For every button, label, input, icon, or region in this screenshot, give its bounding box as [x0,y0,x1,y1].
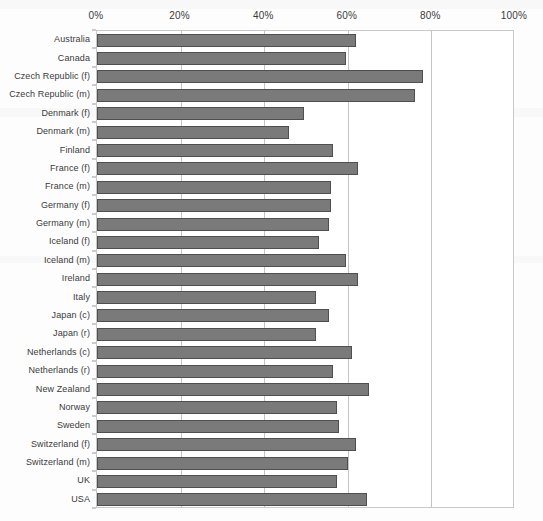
x-tick-label: 60% [336,10,357,21]
bar [97,475,337,488]
y-tick-label: New Zealand [36,384,90,394]
plot-area [96,30,514,508]
bar [97,199,331,212]
bar [97,328,316,341]
bar [97,162,358,175]
bar [97,107,304,120]
y-tick-label: Switzerland (m) [26,457,90,467]
x-tick-label: 0% [89,10,104,21]
y-tick-label: Czech Republic (m) [9,89,90,99]
y-tick-label: Germany (f) [41,200,90,210]
bar [97,70,423,83]
scan-artifact-band [0,0,543,9]
y-tick-label: Denmark (m) [36,126,90,136]
bar [97,52,346,65]
gridline [264,31,265,507]
y-tick-label: Iceland (f) [49,236,90,246]
bar [97,181,331,194]
bar [97,420,339,433]
y-tick-label: France (f) [50,163,90,173]
y-tick-label: Sweden [57,420,90,430]
bar [97,254,346,267]
y-tick-label: Finland [60,145,90,155]
bar [97,144,333,157]
gridline [431,31,432,507]
bar-chart: 0%20%40%60%80%100% AustraliaCanadaCzech … [0,0,543,521]
y-tick-label: Canada [58,53,90,63]
bar [97,34,356,47]
x-tick-label: 100% [501,10,527,21]
y-tick-label: Germany (m) [36,218,90,228]
bar [97,383,369,396]
x-tick-label: 80% [420,10,441,21]
y-tick-label: France (m) [45,181,90,191]
y-tick-label: Australia [54,34,90,44]
y-tick-label: Iceland (m) [44,255,90,265]
bar [97,89,415,102]
bar [97,126,289,139]
y-tick-label: Japan (c) [52,310,90,320]
bar [97,365,333,378]
y-tick-label: Ireland [62,273,90,283]
y-tick-label: Japan (r) [53,328,90,338]
y-axis-category-labels: AustraliaCanadaCzech Republic (f)Czech R… [0,30,94,508]
bar [97,401,337,414]
x-axis-tick-labels: 0%20%40%60%80%100% [0,10,543,26]
bar [97,346,352,359]
y-tick-label: Switzerland (f) [31,439,90,449]
x-tick-label: 20% [169,10,190,21]
bar [97,236,319,249]
bar [97,438,356,451]
bar [97,457,348,470]
bar [97,218,329,231]
bar [97,291,316,304]
y-tick-label: Czech Republic (f) [14,71,90,81]
gridline [348,31,349,507]
bar [97,309,329,322]
y-tick-label: Italy [73,292,90,302]
gridline [181,31,182,507]
x-tick-label: 40% [253,10,274,21]
y-tick-label: Norway [59,402,90,412]
y-tick-label: USA [71,494,90,504]
bar [97,273,358,286]
y-tick-label: Netherlands (r) [28,365,90,375]
bar [97,493,367,506]
y-tick-label: Denmark (f) [41,108,90,118]
y-tick-label: Netherlands (c) [27,347,90,357]
y-tick-label: UK [77,475,90,485]
